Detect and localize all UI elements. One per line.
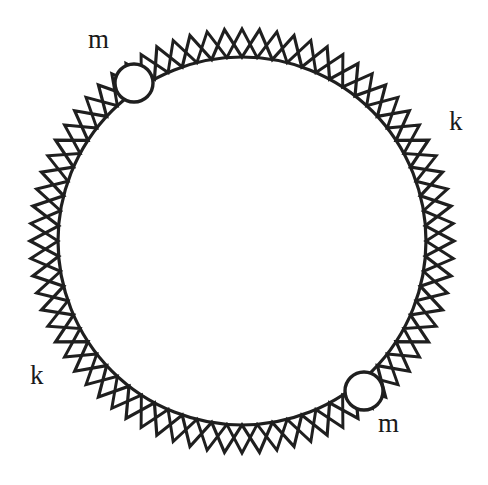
spring-zigzag-path <box>30 30 454 453</box>
mass-label-upper-left: m <box>88 26 109 53</box>
spring-label-right: k <box>449 108 463 135</box>
figure-canvas: m k k m <box>0 0 488 485</box>
ring-base-arc <box>58 57 426 425</box>
spring-zigzag-path-offset <box>31 29 454 453</box>
ring-spring-diagram <box>0 0 488 485</box>
mass-label-lower-right: m <box>378 410 399 437</box>
spring-label-lower-left: k <box>30 362 44 389</box>
spring-ring <box>30 29 454 453</box>
mass-circles <box>115 64 383 410</box>
